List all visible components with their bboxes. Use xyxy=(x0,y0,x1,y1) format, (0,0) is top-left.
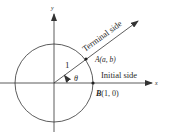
x-axis-label: x xyxy=(154,80,158,86)
initial-side-label: Initial side xyxy=(101,70,137,80)
unit-circle-diagram: y x 1 θ Terminal side A(a, b) Initial si… xyxy=(0,0,170,137)
point-a-dot xyxy=(84,57,87,60)
point-b-coords: (1, 0) xyxy=(101,89,119,98)
y-axis-label: y xyxy=(50,5,54,11)
point-b-label: B(1, 0) xyxy=(95,89,119,98)
angle-label: θ xyxy=(74,74,78,83)
radius-label: 1 xyxy=(65,60,70,70)
point-a-coords: (a, b) xyxy=(100,55,117,64)
point-a-label: A(a, b) xyxy=(94,55,116,64)
point-b-dot xyxy=(91,81,94,84)
angle-arc xyxy=(65,75,68,83)
